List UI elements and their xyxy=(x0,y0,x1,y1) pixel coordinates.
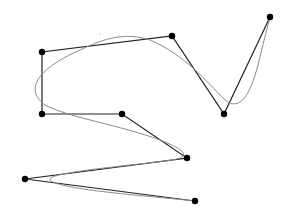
stray-mark xyxy=(99,33,100,34)
control-point-8 xyxy=(267,14,273,20)
spline-diagram xyxy=(0,0,287,217)
control-point-6 xyxy=(169,33,175,39)
control-point-2 xyxy=(184,155,190,161)
control-point-0 xyxy=(192,198,198,204)
control-point-5 xyxy=(39,49,45,55)
control-point-1 xyxy=(22,176,28,182)
control-point-7 xyxy=(221,111,227,117)
control-polygon xyxy=(25,17,270,201)
control-points xyxy=(22,14,273,204)
control-point-3 xyxy=(119,111,125,117)
control-point-4 xyxy=(39,111,45,117)
